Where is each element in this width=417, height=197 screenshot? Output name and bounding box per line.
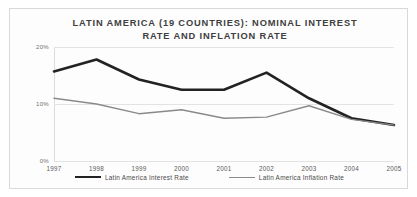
legend-label: Latin America Interest Rate <box>105 174 189 181</box>
plot-area: 0%10%20% 1997199819992000200120022003200… <box>54 47 394 161</box>
chart-legend: Latin America Interest RateLatin America… <box>10 169 409 185</box>
legend-line-icon <box>75 176 101 178</box>
legend-item[interactable]: Latin America Interest Rate <box>75 174 189 181</box>
y-tick-label: 0% <box>40 158 49 164</box>
series-line <box>54 98 394 125</box>
legend-label: Latin America Inflation Rate <box>259 174 344 181</box>
chart-frame: LATIN AMERICA (19 COUNTRIES): NOMINAL IN… <box>9 8 408 189</box>
legend-line-icon <box>229 177 255 178</box>
chart-title-line-2: RATE AND INFLATION RATE <box>50 30 380 43</box>
series-layer <box>54 47 394 161</box>
chart-title-line-1: LATIN AMERICA (19 COUNTRIES): NOMINAL IN… <box>50 17 380 30</box>
legend-item[interactable]: Latin America Inflation Rate <box>229 174 344 181</box>
y-tick-label: 10% <box>36 101 49 107</box>
chart-title: LATIN AMERICA (19 COUNTRIES): NOMINAL IN… <box>50 17 380 42</box>
y-tick-label: 20% <box>36 44 49 50</box>
series-line <box>54 60 394 126</box>
gridline-0 <box>54 161 394 162</box>
